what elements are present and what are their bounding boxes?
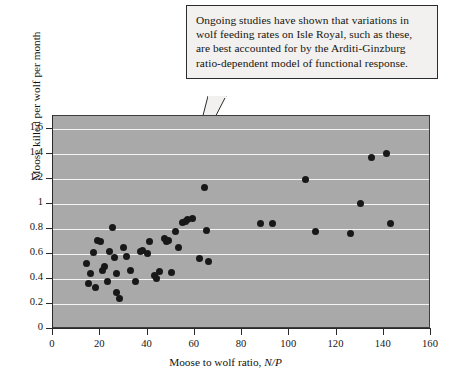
x-tick-mark [288,329,289,335]
annotation-callout-text: Ongoing studies have shown that variatio… [196,13,428,70]
y-axis-label: Moose killed per wolf per month [30,0,42,216]
data-point [97,238,104,245]
data-point [189,215,196,222]
x-tick-mark [147,329,148,335]
x-tick-label: 60 [169,338,219,349]
data-point [92,284,99,291]
data-point [85,280,92,287]
data-point [144,250,151,257]
data-point [347,230,354,237]
data-point [101,263,108,270]
y-tick-mark [46,128,52,129]
x-tick-label: 120 [311,338,361,349]
data-point [312,228,319,235]
x-tick-label: 0 [27,338,77,349]
data-point [201,184,208,191]
data-point [383,150,390,157]
x-tick-mark [383,329,384,335]
data-point [132,278,139,285]
x-tick-mark [430,329,431,335]
x-axis-label: Moose to wolf ratio, N/P [0,356,451,368]
data-point [387,220,394,227]
gridline [53,304,429,305]
data-point [368,154,375,161]
gridline [53,129,429,130]
data-point [104,278,111,285]
scatter-plot-figure: Ongoing studies have shown that variatio… [0,0,451,378]
data-point [127,267,134,274]
x-axis-label-symbol: N/P [264,356,282,368]
data-point [83,260,90,267]
y-tick-mark [46,278,52,279]
data-point [175,244,182,251]
data-point [165,237,172,244]
gridline [53,179,429,180]
data-point [113,270,120,277]
x-tick-mark [52,329,53,335]
data-point [87,270,94,277]
data-point [156,268,163,275]
x-tick-label: 20 [74,338,124,349]
x-tick-mark [241,329,242,335]
y-axis-line [52,115,53,329]
y-tick-mark [46,178,52,179]
annotation-callout: Ongoing studies have shown that variatio… [186,5,438,79]
data-point [196,255,203,262]
y-tick-label: 0.4 [0,271,43,282]
data-point [205,258,212,265]
y-tick-mark [46,228,52,229]
y-tick-mark [46,253,52,254]
plot-area [52,115,430,328]
data-point [111,254,118,261]
data-point [146,238,153,245]
y-tick-label: 0.6 [0,246,43,257]
x-tick-label: 40 [122,338,172,349]
gridline [53,204,429,205]
x-axis-label-text: Moose to wolf ratio, [169,356,261,368]
data-point [120,244,127,251]
y-tick-mark [46,303,52,304]
data-point [269,220,276,227]
x-tick-label: 100 [263,338,313,349]
y-tick-label: 0 [0,321,43,332]
y-tick-label: 0.2 [0,296,43,307]
x-tick-label: 140 [358,338,408,349]
data-point [153,275,160,282]
x-tick-label: 80 [216,338,266,349]
data-point [109,224,116,231]
data-point [302,176,309,183]
x-tick-mark [194,329,195,335]
data-point [168,269,175,276]
data-point [172,228,179,235]
x-tick-mark [99,329,100,335]
data-point [357,200,364,207]
data-point [116,295,123,302]
x-tick-label: 160 [405,338,451,349]
y-tick-mark [46,203,52,204]
data-point [203,227,210,234]
y-tick-mark [46,153,52,154]
x-tick-mark [336,329,337,335]
data-point [123,253,130,260]
data-point [257,220,264,227]
y-tick-label: 0.8 [0,221,43,232]
data-point [90,249,97,256]
